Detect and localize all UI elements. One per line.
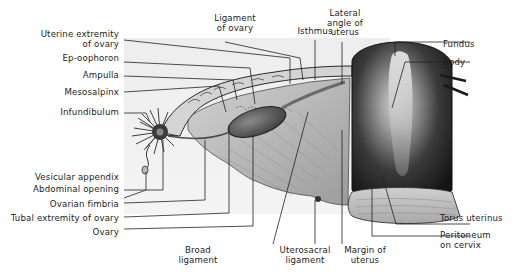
label-ovarian-fimbria: Ovarian fimbria (50, 200, 119, 210)
anatomy-figure: Uterine extremity of ovary Ep-oophoron A… (0, 0, 515, 275)
label-margin-of-uterus: Margin of uterus (330, 246, 400, 265)
label-lateral-angle-of-uterus: Lateral angle of uterus (325, 9, 365, 38)
label-ovary: Ovary (93, 228, 120, 238)
label-line: uterus (325, 28, 365, 38)
label-line: on cervix (440, 241, 491, 251)
label-line: of ovary (205, 24, 265, 34)
label-ampulla: Ampulla (83, 71, 119, 81)
label-vesicular-appendix: Vesicular appendix (35, 173, 119, 183)
label-mesosalpinx: Mesosalpinx (64, 88, 119, 98)
label-line: ligament (168, 256, 228, 266)
label-abdominal-opening: Abdominal opening (33, 185, 119, 195)
label-body: Body (443, 58, 465, 68)
label-line: uterus (330, 256, 400, 266)
label-ligament-of-ovary: Ligament of ovary (205, 14, 265, 33)
label-torus-uterinus: Torus uterinus (440, 214, 503, 224)
label-infundibulum: Infundibulum (60, 108, 119, 118)
label-tubal-extremity-of-ovary: Tubal extremity of ovary (11, 214, 119, 224)
label-fundus: Fundus (443, 40, 475, 50)
label-line: of ovary (41, 40, 119, 50)
label-broad-ligament: Broad ligament (168, 246, 228, 265)
label-uterine-extremity-of-ovary: Uterine extremity of ovary (41, 30, 119, 49)
label-ep-oophoron: Ep-oophoron (62, 54, 119, 64)
label-peritoneum-on-cervix: Peritoneum on cervix (440, 231, 491, 250)
